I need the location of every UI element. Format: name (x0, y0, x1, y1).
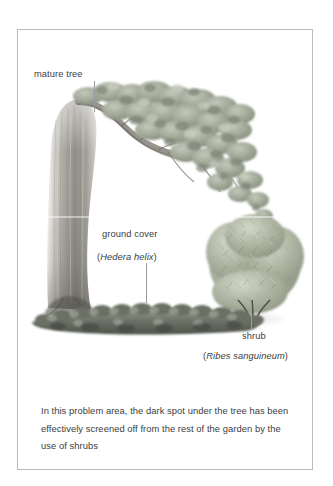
label-ground-cover-species: (Hedera helix) (97, 251, 157, 263)
paren-close: ) (285, 351, 288, 361)
label-ground-cover: ground cover (102, 228, 157, 240)
mature-tree-trunk (44, 99, 96, 318)
label-mature-tree: mature tree (34, 68, 83, 80)
figure-caption: In this problem area, the dark spot unde… (41, 402, 293, 455)
label-shrub: shrub (242, 330, 266, 342)
label-shrub-species: (Ribes sanguineum) (203, 350, 288, 362)
mature-tree-canopy (73, 81, 273, 223)
leader-line-ground-cover (146, 263, 147, 303)
species-name-ribes-sanguineum: Ribes sanguineum (206, 351, 285, 361)
leader-line-shrub (251, 303, 252, 329)
species-name-hedera-helix: Hedera helix (100, 252, 153, 262)
leader-line-mature-tree (94, 81, 95, 112)
paren-close: ) (154, 252, 157, 262)
figure-panel: mature tree ground cover (Hedera helix) … (17, 29, 313, 470)
